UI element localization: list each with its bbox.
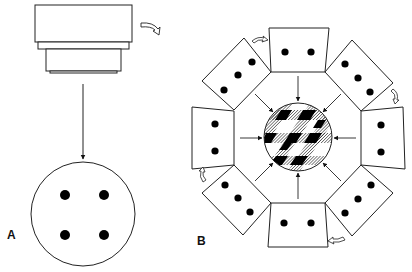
field-top bbox=[269, 28, 329, 72]
field-bottom bbox=[268, 203, 328, 247]
rotation-arrow-icon bbox=[391, 89, 399, 104]
rotation-arrow-icon bbox=[141, 23, 160, 35]
field-right bbox=[361, 107, 405, 169]
field-circle-a bbox=[31, 162, 135, 266]
rotation-arrow-icon bbox=[328, 237, 345, 244]
field-left bbox=[192, 107, 234, 169]
panel-b-label: B bbox=[197, 234, 206, 248]
objective-lens bbox=[35, 5, 132, 73]
composite-image-circle bbox=[245, 80, 344, 180]
rotation-arrow-icon bbox=[252, 36, 268, 43]
panel-a-label: A bbox=[7, 228, 16, 242]
rotation-arrow-icon bbox=[199, 167, 206, 182]
diagram-canvas bbox=[0, 0, 412, 272]
